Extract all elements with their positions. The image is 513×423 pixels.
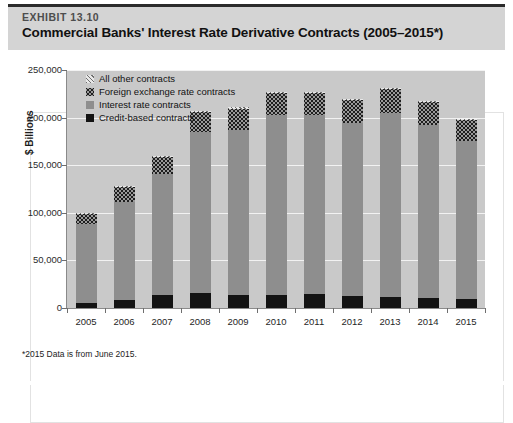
y-axis-tick (62, 70, 67, 71)
bar-segment (190, 132, 211, 293)
bar-stack (76, 213, 97, 308)
bar-stack (456, 119, 477, 308)
x-axis-tick-label: 2013 (371, 316, 409, 327)
bar-segment (266, 295, 287, 308)
x-axis-tick-label: 2005 (67, 316, 105, 327)
legend-item-label: All other contracts (99, 73, 175, 84)
bar-segment (456, 299, 477, 308)
x-axis-tick-label: 2012 (333, 316, 371, 327)
y-axis-tick (62, 260, 67, 261)
bar-stack (228, 107, 249, 308)
bar-stack (418, 101, 439, 308)
y-axis-labels: 050,000100,000150,000200,000250,000 (0, 70, 62, 310)
bar-segment (380, 113, 401, 297)
legend-item: Interest rate contracts (86, 99, 235, 110)
bar-segment (456, 141, 477, 299)
x-axis-tick-label: 2015 (447, 316, 485, 327)
bar-segment (304, 93, 325, 115)
x-axis-line (66, 308, 485, 309)
bar-segment (114, 300, 135, 308)
x-axis-tick (143, 308, 144, 313)
legend-swatch-icon (86, 101, 94, 109)
x-axis-tick-label: 2011 (295, 316, 333, 327)
x-axis-tick (67, 308, 68, 313)
x-axis-tick-label: 2008 (181, 316, 219, 327)
bar-segment (228, 130, 249, 296)
x-axis-tick (371, 308, 372, 313)
y-axis-tick (62, 118, 67, 119)
bar-segment (418, 298, 439, 308)
x-axis-tick (333, 308, 334, 313)
x-axis-tick-label: 2014 (409, 316, 447, 327)
bar-segment (152, 174, 173, 295)
bar-stack (304, 92, 325, 308)
bar-segment (114, 202, 135, 300)
y-axis-tick-label: 0 (6, 302, 62, 313)
y-axis-tick (62, 165, 67, 166)
y-axis-tick (62, 213, 67, 214)
bar-stack (380, 88, 401, 308)
y-axis-title: $ Billions (24, 111, 35, 155)
bar-stack (114, 186, 135, 308)
bar-segment (418, 102, 439, 124)
bar-segment (152, 295, 173, 308)
bar-segment (380, 89, 401, 113)
bar-segment (152, 157, 173, 174)
legend-item: Foreign exchange rate contracts (86, 86, 235, 97)
page-bottom-fill (0, 381, 513, 385)
chart-legend: All other contractsForeign exchange rate… (86, 73, 235, 123)
x-axis-tick-label: 2006 (105, 316, 143, 327)
bar-segment (266, 93, 287, 114)
legend-item: Credit-based contracts (86, 112, 235, 123)
x-axis-tick (105, 308, 106, 313)
legend-item-label: Foreign exchange rate contracts (99, 86, 235, 97)
figure-footnote: *2015 Data is from June 2015. (22, 349, 137, 359)
legend-item-label: Interest rate contracts (99, 99, 191, 110)
x-axis-tick-label: 2010 (257, 316, 295, 327)
exhibit-label: EXHIBIT 13.10 (22, 11, 99, 23)
bar-stack (342, 99, 363, 308)
bar-segment (304, 294, 325, 308)
bar-segment (304, 115, 325, 294)
bar-segment (190, 293, 211, 308)
legend-swatch-icon (86, 88, 94, 96)
y-axis-tick (62, 308, 67, 309)
x-axis-tick-label: 2007 (143, 316, 181, 327)
bar-segment (342, 100, 363, 123)
bar-stack (152, 156, 173, 308)
y-axis-line (66, 70, 67, 308)
bar-segment (76, 224, 97, 303)
bar-segment (114, 187, 135, 202)
bar-stack (190, 111, 211, 308)
x-axis-tick-label: 2009 (219, 316, 257, 327)
legend-item: All other contracts (86, 73, 235, 84)
bar-segment (342, 123, 363, 295)
x-axis-tick (295, 308, 296, 313)
x-axis-tick (219, 308, 220, 313)
y-axis-tick-label: 150,000 (6, 159, 62, 170)
bar-segment (228, 295, 249, 308)
bar-segment (76, 214, 97, 224)
bar-stack (266, 92, 287, 308)
legend-item-label: Credit-based contracts (99, 112, 195, 123)
x-axis-tick (485, 308, 486, 313)
bar-segment (418, 125, 439, 298)
y-axis-tick-label: 250,000 (6, 64, 62, 75)
x-axis-tick (181, 308, 182, 313)
bar-segment (380, 297, 401, 308)
x-axis-tick (447, 308, 448, 313)
x-axis-tick (409, 308, 410, 313)
y-axis-tick-label: 50,000 (6, 254, 62, 265)
x-axis-tick (257, 308, 258, 313)
bar-segment (456, 120, 477, 140)
y-axis-tick-label: 100,000 (6, 207, 62, 218)
bar-segment (342, 296, 363, 308)
bar-segment (266, 115, 287, 295)
legend-swatch-icon (86, 75, 94, 83)
legend-swatch-icon (86, 114, 94, 122)
exhibit-title: Commercial Banks' Interest Rate Derivati… (22, 25, 443, 40)
